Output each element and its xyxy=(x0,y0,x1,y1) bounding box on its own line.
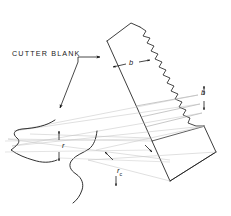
cutter-blank-label: CUTTER BLANK xyxy=(12,49,81,58)
dimension-label-rc-subscript: c xyxy=(120,171,123,177)
dimension-label-b-right: b xyxy=(201,88,205,97)
drawing-vector-layer xyxy=(0,0,231,216)
projection-rays xyxy=(8,95,216,181)
dimension-rc xyxy=(105,152,116,186)
cutter-blank-leader xyxy=(60,57,100,108)
dimension-label-b-top: b xyxy=(129,58,133,67)
dimension-label-rc: rc xyxy=(117,166,122,177)
tooth-profile-left xyxy=(11,120,57,162)
profile-tick-marks xyxy=(145,145,152,152)
blank-band-lines xyxy=(152,126,216,181)
tooth-profile-middle xyxy=(70,131,97,203)
dimension-label-r: r xyxy=(62,141,65,150)
technical-drawing-canvas: CUTTER BLANK b b r rc xyxy=(0,0,231,216)
blank-band-lines-faint xyxy=(136,95,202,127)
